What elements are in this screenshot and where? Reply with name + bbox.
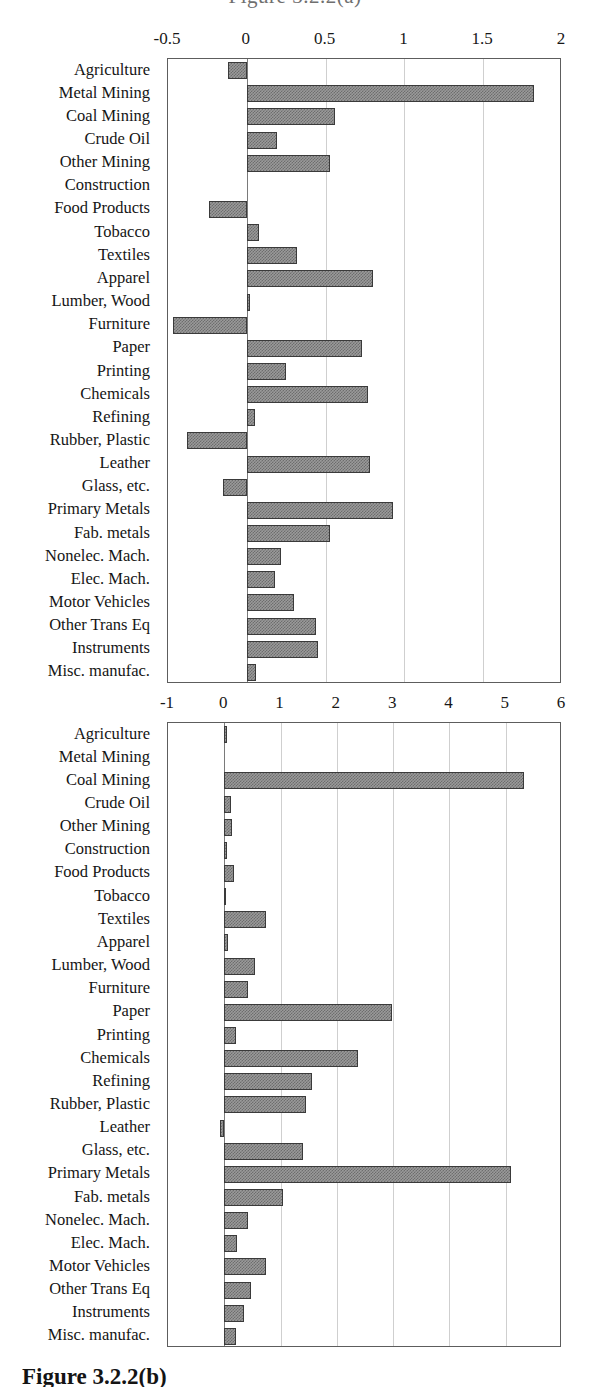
category-label: Textiles: [98, 247, 150, 263]
category-label: Apparel: [97, 934, 150, 950]
figure-top: -0.500.511.52 AgricultureMetal MiningCoa…: [0, 26, 590, 686]
category-label: Lumber, Wood: [51, 957, 150, 973]
x-tick-label: 3: [388, 692, 397, 714]
category-label: Coal Mining: [66, 108, 150, 124]
bar: [224, 888, 226, 905]
category-label: Food Products: [54, 200, 150, 216]
gridline: [506, 723, 507, 1346]
category-label: Glass, etc.: [82, 478, 150, 494]
category-label: Chemicals: [80, 386, 150, 402]
category-label: Crude Oil: [84, 131, 150, 147]
bar: [247, 108, 335, 125]
category-label: Refining: [92, 1073, 150, 1089]
bar: [224, 911, 266, 928]
bar: [224, 819, 232, 836]
bar: [247, 502, 394, 519]
bar: [247, 247, 297, 264]
bar: [224, 1096, 306, 1113]
bar: [224, 796, 231, 813]
bar: [247, 224, 260, 241]
category-label: Primary Metals: [48, 501, 150, 517]
bar: [224, 726, 226, 743]
category-label: Chemicals: [80, 1050, 150, 1066]
bar: [247, 548, 282, 565]
top-cut-heading: Figure 3.2.2(a): [0, 0, 590, 26]
category-label: Elec. Mach.: [71, 571, 150, 587]
gridline: [393, 723, 394, 1346]
bar: [224, 981, 248, 998]
bar: [224, 1305, 244, 1322]
category-label: Apparel: [97, 270, 150, 286]
bar: [224, 1143, 303, 1160]
x-tick-label: 1.5: [472, 28, 493, 50]
category-label: Furniture: [89, 980, 150, 996]
category-label: Printing: [97, 1027, 150, 1043]
category-label: Rubber, Plastic: [50, 432, 150, 448]
bar: [247, 641, 318, 658]
gridline: [404, 59, 405, 682]
bar: [247, 409, 255, 426]
bar: [224, 842, 226, 859]
category-label: Primary Metals: [48, 1165, 150, 1181]
bar: [224, 1050, 358, 1067]
category-label: Food Products: [54, 864, 150, 880]
category-label: Paper: [112, 339, 150, 355]
bar: [224, 1073, 311, 1090]
bar: [247, 456, 370, 473]
bar: [187, 432, 247, 449]
top-cut-heading-text: Figure 3.2.2(a): [229, 0, 362, 9]
bar: [224, 1328, 235, 1345]
category-label: Motor Vehicles: [49, 1258, 150, 1274]
bar: [224, 772, 523, 789]
category-label: Printing: [97, 363, 150, 379]
category-label: Other Trans Eq: [49, 617, 150, 633]
category-label: Other Trans Eq: [49, 1281, 150, 1297]
x-axis-top: -0.500.511.52: [0, 28, 590, 58]
bar: [224, 865, 234, 882]
category-label: Misc. manufac.: [48, 1327, 150, 1343]
category-label: Elec. Mach.: [71, 1235, 150, 1251]
category-label: Lumber, Wood: [51, 293, 150, 309]
category-label: Rubber, Plastic: [50, 1096, 150, 1112]
plot-area-top: [167, 58, 561, 683]
category-label: Construction: [65, 177, 150, 193]
x-tick-label: 0.5: [314, 28, 335, 50]
category-label: Instruments: [72, 1304, 150, 1320]
category-label: Nonelec. Mach.: [45, 548, 150, 564]
category-label: Motor Vehicles: [49, 594, 150, 610]
x-axis-bottom: -10123456: [0, 692, 590, 722]
category-label: Tobacco: [94, 224, 150, 240]
bar: [224, 1258, 266, 1275]
bar: [247, 340, 362, 357]
bar: [247, 386, 368, 403]
bar: [173, 317, 247, 334]
x-tick-label: 0: [242, 28, 251, 50]
bar: [247, 594, 294, 611]
category-label: Instruments: [72, 640, 150, 656]
category-label: Other Mining: [60, 818, 150, 834]
bar: [247, 664, 256, 681]
gridline: [483, 59, 484, 682]
category-label: Paper: [112, 1003, 150, 1019]
bar: [224, 1166, 511, 1183]
bar: [223, 479, 247, 496]
category-label: Nonelec. Mach.: [45, 1212, 150, 1228]
bar: [228, 62, 247, 79]
category-label: Leather: [100, 455, 150, 471]
bar: [224, 1027, 235, 1044]
bar: [247, 132, 277, 149]
plot-area-bottom: [167, 722, 561, 1347]
x-tick-label: 6: [557, 692, 566, 714]
bar: [224, 934, 227, 951]
gridline: [326, 59, 327, 682]
x-tick-label: 4: [444, 692, 453, 714]
x-tick-label: 2: [557, 28, 566, 50]
bar: [224, 1004, 392, 1021]
x-tick-label: -0.5: [154, 28, 181, 50]
figure-caption: Figure 3.2.2(b): [22, 1364, 167, 1387]
bar: [247, 363, 286, 380]
category-label: Furniture: [89, 316, 150, 332]
category-label: Fab. metals: [74, 525, 150, 541]
category-label: Leather: [100, 1119, 150, 1135]
x-tick-label: -1: [160, 692, 174, 714]
